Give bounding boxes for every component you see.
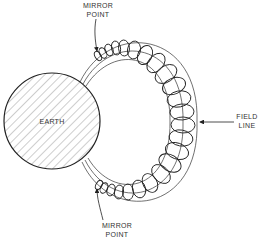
bottom-mirror-point-label: MIRROR POINT [101, 221, 133, 239]
field-line-label: FIELD LINE [232, 112, 262, 130]
top-mirror-label-line2: POINT [82, 10, 114, 19]
field-line-label-line2: LINE [232, 121, 262, 130]
top-mirror-arrow [95, 19, 97, 51]
field-line-label-line1: FIELD [232, 112, 262, 121]
bottom-mirror-label-line1: MIRROR [101, 221, 133, 230]
earth-label: EARTH [36, 117, 68, 126]
bottom-mirror-label-line2: POINT [101, 230, 133, 239]
bottom-mirror-arrow [97, 189, 103, 220]
top-mirror-point-label: MIRROR POINT [82, 1, 114, 19]
top-mirror-label-line1: MIRROR [82, 1, 114, 10]
